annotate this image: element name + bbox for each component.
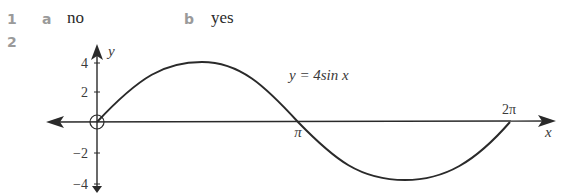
y-tick-label-neg4: −4 [73,177,88,192]
y-tick-label-neg2: −2 [73,146,88,161]
y-tick-label-2: 2 [81,85,88,100]
equation-label: y = 4sin x [287,67,349,83]
y-axis-label: y [106,43,115,59]
sine-graph: 4 2 −2 −4 y x π 2π y = 4sin x [0,0,562,193]
x-axis-label: x [544,124,552,140]
y-tick-label-4: 4 [81,56,88,71]
x-tick-label-2pi: 2π [502,102,516,117]
x-axis [52,121,548,122]
y-axis-down-arrow-icon [92,186,102,193]
